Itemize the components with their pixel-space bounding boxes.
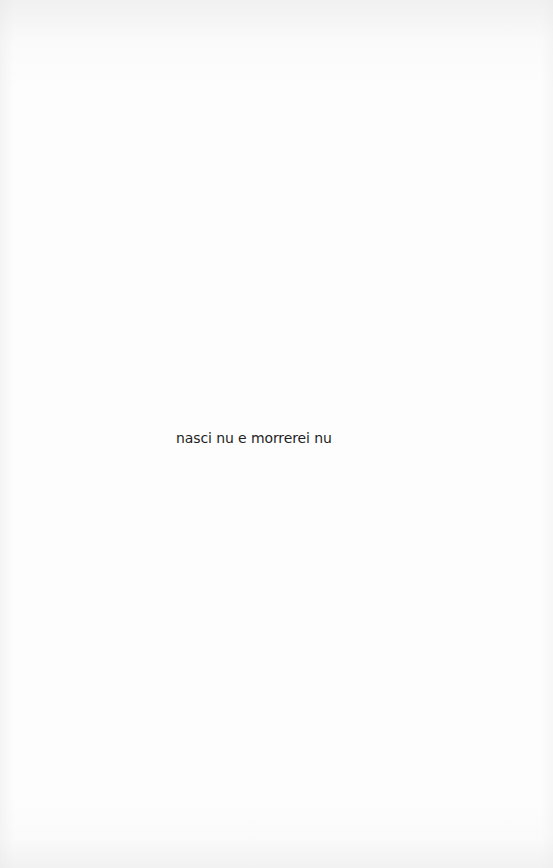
epigraph-text: nasci nu e morrerei nu	[176, 428, 332, 448]
document-page: nasci nu e morrerei nu	[0, 0, 553, 868]
